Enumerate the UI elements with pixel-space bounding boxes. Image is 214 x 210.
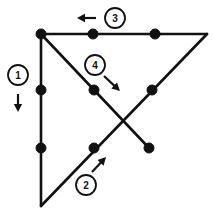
diagram-canvas: 1234: [0, 0, 214, 210]
dot-ascending-diagonal-upper: [147, 85, 157, 95]
dot-top-left-vertex: [36, 29, 46, 39]
step-label-1-text: 1: [15, 70, 21, 81]
step-label-2-text: 2: [83, 180, 89, 191]
dot-top-edge-second: [150, 29, 160, 39]
dot-top-edge-first: [88, 29, 98, 39]
step-label-4-text: 4: [92, 60, 98, 71]
arrow-down-head: [14, 104, 22, 112]
arrow-left-head: [77, 14, 85, 22]
arrow-down-right-shaft: [104, 76, 115, 86]
edges-group: [41, 34, 207, 206]
dot-left-edge-upper: [36, 85, 46, 95]
dot-descending-diagonal-end: [144, 143, 154, 153]
labels-group: 1234: [8, 8, 125, 195]
dot-descending-diagonal-mid: [89, 85, 99, 95]
arrow-up-right-shaft: [92, 162, 101, 172]
figure-container: 1234: [0, 0, 214, 210]
step-label-2: 2: [76, 157, 106, 195]
step-label-1: 1: [8, 65, 28, 112]
dot-ascending-diagonal-lower: [89, 143, 99, 153]
step-label-3-text: 3: [112, 13, 118, 24]
dot-left-edge-lower: [36, 143, 46, 153]
step-label-3: 3: [77, 8, 125, 28]
